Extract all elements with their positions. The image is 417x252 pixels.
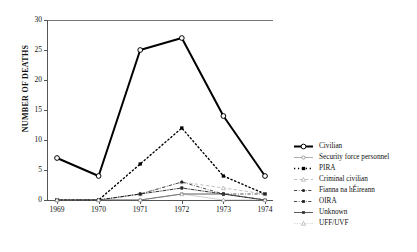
x-tick-label: 1972 xyxy=(174,206,189,214)
y-tick-label: 10 xyxy=(35,136,43,144)
data-point xyxy=(264,193,267,196)
data-point xyxy=(301,144,306,149)
data-point xyxy=(301,221,305,225)
y-tick-label: 15 xyxy=(35,106,43,114)
x-tick-label: 1973 xyxy=(216,206,231,214)
legend-marker-filled-circle-icon xyxy=(293,185,314,196)
x-tick-label: 1971 xyxy=(133,206,148,214)
legend-marker-open-circle-icon xyxy=(293,141,314,152)
legend-label: Security force personnel xyxy=(319,154,389,161)
series-civilian xyxy=(55,36,268,179)
series-layer xyxy=(47,20,273,200)
data-point xyxy=(221,186,225,190)
legend-item-security-force-personnel[interactable]: Security force personnel xyxy=(293,152,389,163)
legend-label: Civilian xyxy=(319,143,342,150)
y-tick-label: 5 xyxy=(38,166,42,174)
chart-legend: CivilianSecurity force personnelPIRACrim… xyxy=(293,141,389,229)
y-tick-label: 25 xyxy=(35,46,43,54)
plot-area: 051015202530 196919701971197219731974 xyxy=(47,20,273,200)
data-point xyxy=(222,193,225,196)
data-point xyxy=(139,193,142,196)
legend-marker-open-circle-icon xyxy=(293,152,314,163)
data-point xyxy=(302,200,305,203)
legend-item-criminal-civilian[interactable]: Criminal civilian xyxy=(293,174,389,185)
x-tick-label: 1970 xyxy=(91,206,106,214)
chart-figure: NUMBER OF DEATHS 051015202530 1969197019… xyxy=(0,0,417,252)
y-tick-label: 30 xyxy=(35,16,43,24)
x-tick xyxy=(182,200,183,204)
data-point xyxy=(55,156,60,161)
legend-marker-filled-square-icon xyxy=(293,207,314,218)
data-point xyxy=(263,174,268,179)
x-tick-label: 1969 xyxy=(50,206,65,214)
data-point xyxy=(139,162,142,165)
x-tick-label: 1974 xyxy=(258,206,273,214)
legend-label: Criminal civilian xyxy=(319,176,368,183)
legend-label: UFF/UVF xyxy=(319,220,349,227)
legend-item-oira[interactable]: OIRA xyxy=(293,196,389,207)
data-point xyxy=(221,114,226,119)
legend-label: Unknown xyxy=(319,209,347,216)
data-point xyxy=(302,167,305,170)
legend-item-civilian[interactable]: Civilian xyxy=(293,141,389,152)
legend-item-uff-uvf[interactable]: UFF/UVF xyxy=(293,218,389,229)
data-point xyxy=(302,156,305,159)
legend-marker-open-triangle-icon xyxy=(293,174,314,185)
data-point xyxy=(138,48,143,53)
y-tick-label: 20 xyxy=(35,76,43,84)
data-point xyxy=(179,36,184,41)
legend-label: OIRA xyxy=(319,198,337,205)
data-point xyxy=(180,180,183,183)
data-point xyxy=(180,126,183,129)
data-point xyxy=(180,187,183,190)
legend-marker-open-triangle-icon xyxy=(293,218,314,229)
y-axis-title: NUMBER OF DEATHS xyxy=(21,24,30,154)
legend-marker-filled-square-icon xyxy=(293,163,314,174)
data-point xyxy=(96,174,101,179)
data-point xyxy=(302,189,305,192)
y-tick-label: 0 xyxy=(38,196,42,204)
legend-label: PIRA xyxy=(319,165,335,172)
legend-marker-filled-square-icon xyxy=(293,196,314,207)
legend-item-fianna-na-h-ireann[interactable]: Fianna na hÉireann xyxy=(293,185,389,196)
series-pira xyxy=(55,126,266,201)
legend-item-unknown[interactable]: Unknown xyxy=(293,207,389,218)
series-oira xyxy=(56,187,267,202)
y-tick xyxy=(44,200,48,201)
legend-item-pira[interactable]: PIRA xyxy=(293,163,389,174)
legend-label: Fianna na hÉireann xyxy=(319,187,375,194)
data-point xyxy=(222,174,225,177)
data-point xyxy=(302,211,305,214)
